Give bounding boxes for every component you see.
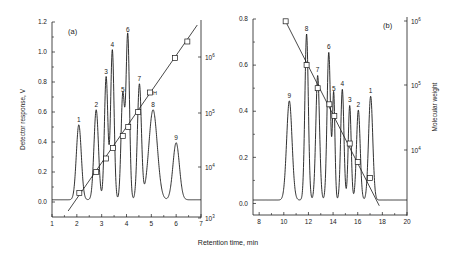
y-tick-label: 0.2 [38, 168, 47, 175]
y-tick-label: 0.8 [239, 15, 248, 22]
x-tick-label: 16 [354, 218, 362, 225]
y2-tick-label: 105 [411, 81, 421, 89]
peak-label: 6 [327, 43, 331, 50]
y-tick-label: 0.6 [38, 108, 47, 115]
calibration-marker [347, 141, 352, 146]
peak-label: 9 [174, 134, 178, 141]
y-tick-label: 0.8 [38, 78, 47, 85]
calibration-marker [126, 125, 131, 130]
x-tick-label: 4 [125, 220, 129, 227]
y2-tick-label: 103 [205, 214, 215, 222]
y2-tick-label: 106 [411, 17, 421, 25]
peak-label: 7 [316, 66, 320, 73]
calibration-marker [110, 146, 115, 151]
calibration-marker [283, 19, 288, 24]
x-tick-label: 12 [305, 218, 313, 225]
peak-label: 1 [369, 87, 373, 94]
calibration-marker [355, 159, 360, 164]
peak-label: 9 [288, 92, 292, 99]
y-tick-label: 0.6 [239, 61, 248, 68]
calibration-marker-label: H [153, 90, 157, 96]
peak-label: 5 [121, 86, 125, 93]
x-tick-label: 14 [329, 218, 337, 225]
x-tick-label: 18 [379, 218, 387, 225]
panel-label: (a) [68, 27, 78, 36]
y-tick-label: 1.2 [38, 18, 47, 25]
calibration-marker [327, 102, 332, 107]
peak-label: 3 [104, 68, 108, 75]
calibration-marker [368, 176, 373, 181]
peak-label: 8 [151, 101, 155, 108]
x-tick-label: 3 [100, 220, 104, 227]
chromatogram-trace [52, 33, 201, 200]
peak-label: 7 [138, 75, 142, 82]
calibration-marker [172, 56, 177, 61]
x-tick-label: 1 [50, 220, 54, 227]
x-axis-label: Retention time, min [198, 239, 258, 246]
y-tick-label: 0.2 [239, 154, 248, 161]
panel-label: (b) [383, 21, 393, 30]
calibration-marker [94, 170, 99, 175]
calibration-line [284, 19, 379, 206]
panel-a: 12345670.00.20.40.60.81.01.2103104105106… [19, 18, 215, 227]
y2-tick-label: 105 [205, 109, 215, 117]
calibration-marker [185, 39, 190, 44]
y-axis-label: Detector response, V [19, 88, 27, 150]
calibration-marker [77, 191, 82, 196]
peak-label: 4 [341, 80, 345, 87]
calibration-marker [315, 86, 320, 91]
x-tick-label: 10 [280, 218, 288, 225]
calibration-marker [332, 113, 337, 118]
peak-label: 6 [126, 26, 130, 33]
x-tick-label: 7 [199, 220, 203, 227]
y-tick-label: 0.4 [239, 107, 248, 114]
y2-axis-label: Molecular weight [431, 82, 439, 131]
calibration-line [68, 25, 197, 211]
y-tick-label: 0.0 [239, 200, 248, 207]
y2-tick-label: 104 [411, 146, 421, 154]
peak-label: 2 [357, 101, 361, 108]
calibration-marker [120, 134, 125, 139]
peak-label: 1 [77, 116, 81, 123]
y2-tick-label: 106 [205, 53, 215, 61]
calibration-marker [148, 90, 153, 95]
chromatogram-trace [253, 34, 407, 200]
x-tick-label: 8 [257, 218, 261, 225]
calibration-marker [136, 110, 141, 115]
peak-label: 3 [348, 96, 352, 103]
peak-label: 8 [305, 25, 309, 32]
x-tick-label: 2 [75, 220, 79, 227]
y-tick-label: 0.4 [38, 138, 47, 145]
chromatogram-figure: 12345670.00.20.40.60.81.01.2103104105106… [0, 0, 453, 255]
x-tick-label: 6 [174, 220, 178, 227]
y-tick-label: 1.0 [38, 48, 47, 55]
y2-tick-label: 104 [205, 163, 215, 171]
calibration-marker [304, 63, 309, 68]
y-tick-label: 0.0 [38, 198, 47, 205]
peak-label: 4 [111, 41, 115, 48]
panel-b: 81012141618200.00.20.40.60.8104105106987… [239, 15, 439, 225]
calibration-marker [104, 156, 109, 161]
x-tick-label: 5 [150, 220, 154, 227]
peak-label: 2 [94, 101, 98, 108]
x-tick-label: 20 [403, 218, 411, 225]
peak-label: 5 [332, 85, 336, 92]
